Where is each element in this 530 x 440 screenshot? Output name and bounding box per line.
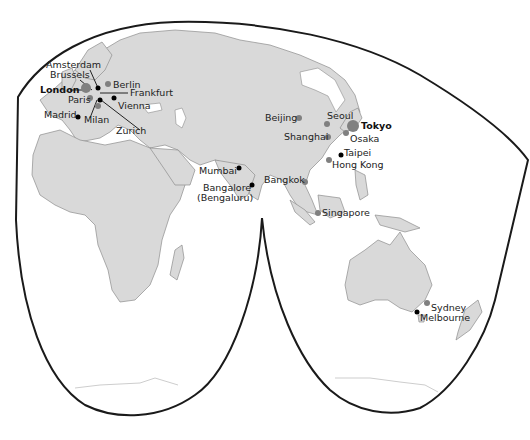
world-map: Amsterdam Brussels London Paris Berlin F… bbox=[0, 0, 530, 440]
marker-tokyo[interactable] bbox=[347, 120, 359, 132]
marker-milan[interactable] bbox=[95, 103, 101, 109]
marker-zurich[interactable] bbox=[98, 98, 103, 103]
label-brussels: Brussels bbox=[50, 69, 90, 80]
antarctica-coast-east bbox=[335, 378, 438, 392]
label-mumbai: Mumbai bbox=[199, 165, 237, 176]
label-tokyo: Tokyo bbox=[361, 120, 392, 131]
label-frankfurt: Frankfurt bbox=[130, 87, 173, 98]
australia bbox=[345, 232, 432, 312]
map-svg: Amsterdam Brussels London Paris Berlin F… bbox=[0, 0, 530, 440]
marker-seoul[interactable] bbox=[324, 121, 330, 127]
madagascar bbox=[170, 245, 184, 280]
label-paris: Paris bbox=[68, 94, 91, 105]
marker-london[interactable] bbox=[81, 83, 91, 93]
marker-singapore[interactable] bbox=[315, 210, 321, 216]
marker-sydney[interactable] bbox=[424, 300, 430, 306]
label-bangkok: Bangkok bbox=[264, 174, 305, 185]
marker-osaka[interactable] bbox=[343, 130, 349, 136]
label-taipei: Taipei bbox=[343, 147, 371, 158]
label-bengaluru: (Bengaluru) bbox=[197, 192, 253, 203]
label-beijing: Beijing bbox=[265, 112, 297, 123]
label-hongkong: Hong Kong bbox=[332, 159, 384, 170]
marker-taipei[interactable] bbox=[339, 153, 344, 158]
marker-berlin[interactable] bbox=[105, 81, 111, 87]
label-vienna: Vienna bbox=[118, 100, 151, 111]
marker-vienna[interactable] bbox=[112, 96, 117, 101]
label-madrid: Madrid bbox=[44, 109, 77, 120]
label-singapore: Singapore bbox=[322, 207, 370, 218]
label-osaka: Osaka bbox=[350, 133, 379, 144]
antarctica-coast-west bbox=[75, 378, 178, 388]
label-melbourne: Melbourne bbox=[420, 312, 470, 323]
marker-amsterdam[interactable] bbox=[96, 86, 101, 91]
new-guinea bbox=[375, 215, 420, 232]
marker-melbourne[interactable] bbox=[415, 310, 420, 315]
label-seoul: Seoul bbox=[327, 110, 353, 121]
label-shanghai: Shanghai bbox=[284, 131, 328, 142]
marker-mumbai[interactable] bbox=[237, 166, 242, 171]
label-milan: Milan bbox=[84, 114, 109, 125]
label-zurich: Zurich bbox=[116, 125, 146, 136]
philippines bbox=[355, 170, 368, 200]
